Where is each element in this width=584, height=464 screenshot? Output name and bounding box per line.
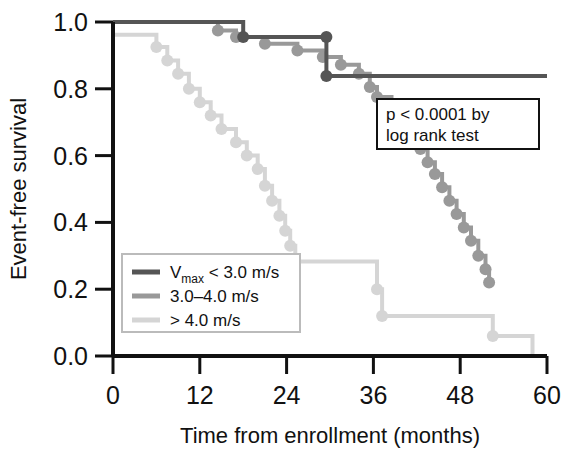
y-tick-label: 0.0 <box>53 342 88 370</box>
legend-label-gt-4: > 4.0 m/s <box>170 311 240 330</box>
censor-marker <box>259 38 271 50</box>
chart-figure: 0.00.20.40.60.81.0 01224364860 Time from… <box>0 0 584 464</box>
censor-marker <box>279 225 291 237</box>
annotation-line-1: p < 0.0001 by <box>386 105 490 124</box>
censor-marker <box>252 163 264 175</box>
censor-marker <box>273 210 285 222</box>
censor-marker <box>436 181 448 193</box>
censor-marker <box>230 136 242 148</box>
x-tick-label: 0 <box>106 381 120 409</box>
censor-marker <box>443 195 455 207</box>
censor-marker <box>161 54 173 66</box>
x-tick-label: 60 <box>533 381 561 409</box>
censor-marker <box>371 283 383 295</box>
censor-marker <box>183 83 195 95</box>
y-tick-label: 0.8 <box>53 75 88 103</box>
annotation-line-2: log rank test <box>386 126 479 145</box>
censor-marker <box>194 96 206 108</box>
censor-marker <box>205 110 217 122</box>
p-value-annotation: p < 0.0001 by log rank test <box>377 99 539 149</box>
censor-marker <box>291 44 303 56</box>
censor-marker <box>216 123 228 135</box>
legend-label-3-to-4: 3.0–4.0 m/s <box>170 287 259 306</box>
censor-marker <box>320 70 332 82</box>
censor-marker <box>241 150 253 162</box>
y-tick-label: 0.6 <box>53 142 88 170</box>
censor-marker <box>364 81 376 93</box>
censor-marker <box>172 68 184 80</box>
censor-marker <box>237 31 249 43</box>
x-axis-title: Time from enrollment (months) <box>180 423 480 448</box>
x-tick-layer: 01224364860 <box>106 356 561 409</box>
y-axis-title: Event-free survival <box>6 98 31 280</box>
censor-marker <box>483 277 495 289</box>
censor-marker <box>422 156 434 168</box>
censor-marker <box>150 41 162 53</box>
y-tick-label: 0.2 <box>53 275 88 303</box>
x-tick-label: 12 <box>186 381 214 409</box>
censor-marker <box>451 208 463 220</box>
y-tick-label: 1.0 <box>53 8 88 36</box>
censor-marker <box>487 330 499 342</box>
censor-marker <box>335 59 347 71</box>
censor-marker <box>480 263 492 275</box>
x-tick-label: 24 <box>273 381 301 409</box>
censor-marker <box>458 221 470 233</box>
censor-marker <box>320 31 332 43</box>
censor-marker <box>429 168 441 180</box>
censor-marker <box>284 240 296 252</box>
legend: Vmax < 3.0 m/s 3.0–4.0 m/s > 4.0 m/s <box>122 254 300 332</box>
x-tick-label: 48 <box>446 381 474 409</box>
x-tick-label: 36 <box>359 381 387 409</box>
censor-marker <box>465 235 477 247</box>
censor-marker <box>212 24 224 36</box>
y-tick-label: 0.4 <box>53 208 88 236</box>
y-tick-layer: 0.00.20.40.60.81.0 <box>53 8 113 370</box>
censor-marker <box>266 195 278 207</box>
censor-marker <box>376 310 388 322</box>
censor-marker <box>259 180 271 192</box>
censor-marker <box>472 250 484 262</box>
kaplan-meier-survival-chart: 0.00.20.40.60.81.0 01224364860 Time from… <box>0 0 584 464</box>
